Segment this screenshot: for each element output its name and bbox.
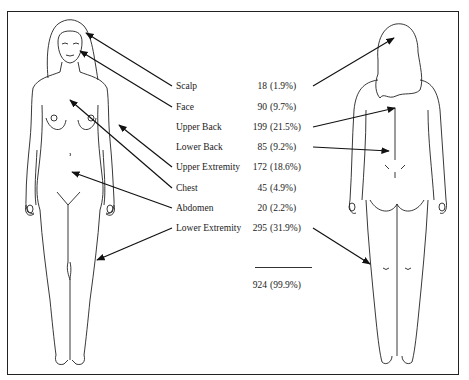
total-divider [255,267,312,268]
arrow-abdomen [72,172,172,208]
back-figure [349,24,447,364]
row-label: Upper Extremity [176,161,240,173]
row-label: Chest [176,182,198,194]
row-count: 295 [241,222,267,234]
row-percent: (2.2%) [270,202,296,214]
row-percent: (1.9%) [270,80,296,92]
row-count: 85 [241,141,267,153]
front-figure [25,20,114,365]
total-count: 924 [241,279,267,291]
row-percent: (4.9%) [270,182,296,194]
row-percent: (18.6%) [270,161,301,173]
row-percent: (21.5%) [270,121,301,133]
row-percent: (31.9%) [270,222,301,234]
arrow-face [80,51,172,107]
arrow-lower-extremity-front [97,228,172,260]
body-diagram-art [0,0,469,380]
row-percent: (9.7%) [270,101,296,113]
row-label: Lower Extremity [176,222,241,234]
arrow-lower-extremity-back [313,228,370,264]
row-count: 18 [241,80,267,92]
row-label: Scalp [176,80,197,92]
row-count: 20 [241,202,267,214]
row-percent: (9.2%) [270,141,296,153]
row-count: 199 [241,121,267,133]
row-count: 90 [241,101,267,113]
row-label: Upper Back [176,121,222,133]
row-count: 45 [241,182,267,194]
row-label: Abdomen [176,202,213,214]
arrow-scalp-front [86,33,172,86]
total-percent: (99.9%) [270,279,301,291]
arrow-upper-extremity [119,125,172,167]
arrow-lower-back [313,147,389,151]
arrow-scalp-back [313,38,394,86]
row-label: Lower Back [176,141,223,153]
arrow-chest [70,100,172,188]
row-count: 172 [241,161,267,173]
row-label: Face [176,101,194,113]
